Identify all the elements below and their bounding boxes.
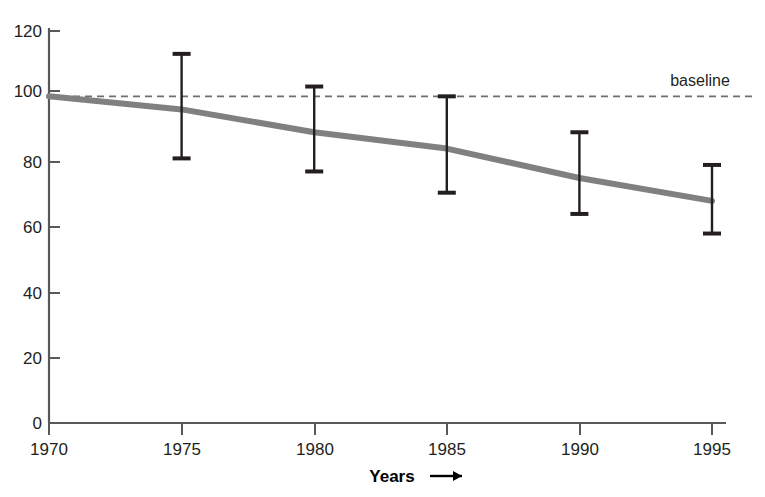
y-tick-label-0: 0	[33, 414, 42, 433]
x-tick-label-1970: 1970	[30, 440, 68, 459]
x-tick-label-1995: 1995	[693, 440, 731, 459]
y-tick-label-100: 100	[14, 82, 42, 101]
x-tick-label-1975: 1975	[163, 440, 201, 459]
x-tick-label-1980: 1980	[296, 440, 334, 459]
y-tick-label-40: 40	[23, 284, 42, 303]
y-tick-label-20: 20	[23, 349, 42, 368]
x-tick-label-1985: 1985	[428, 440, 466, 459]
baseline-label: baseline	[670, 72, 730, 89]
x-axis-title: Years	[369, 467, 414, 486]
y-tick-label-120: 120	[14, 22, 42, 41]
x-tick-label-1990: 1990	[561, 440, 599, 459]
chart-svg: 120 100 80 60 40 20 0 1970 1975 1980 198…	[0, 0, 765, 497]
chart-container: 120 100 80 60 40 20 0 1970 1975 1980 198…	[0, 0, 765, 497]
y-tick-label-60: 60	[23, 218, 42, 237]
y-tick-label-80: 80	[23, 153, 42, 172]
